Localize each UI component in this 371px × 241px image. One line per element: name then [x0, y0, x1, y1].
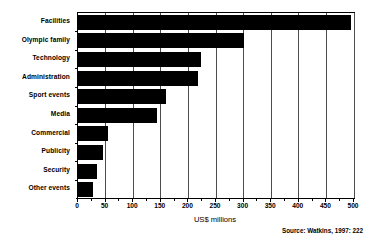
x-tick-label: 100 — [127, 203, 138, 210]
bar-row — [78, 164, 354, 179]
bar-row — [78, 126, 354, 141]
bar-row — [78, 89, 354, 104]
bar — [78, 33, 244, 48]
x-minor-tick-75 — [118, 198, 119, 201]
bar — [78, 108, 157, 123]
bar — [78, 52, 201, 67]
x-tick-label: 350 — [265, 203, 276, 210]
category-tick — [75, 124, 78, 125]
category-tick — [75, 31, 78, 32]
category-label: Olympic family — [22, 37, 70, 44]
category-tick — [75, 161, 78, 162]
x-axis-title: US$ millions — [77, 216, 353, 224]
category-tick — [75, 180, 78, 181]
bar — [78, 182, 93, 197]
category-label: Facilities — [41, 18, 70, 25]
category-tick — [75, 87, 78, 88]
category-axis: FacilitiesOlympic familyTechnologyAdmini… — [0, 12, 74, 198]
bar-chart: FacilitiesOlympic familyTechnologyAdmini… — [0, 0, 371, 241]
category-label: Administration — [22, 74, 70, 81]
x-minor-tick-225 — [201, 198, 202, 201]
bar — [78, 89, 166, 104]
x-tick-label: 450 — [320, 203, 331, 210]
bar-row — [78, 15, 354, 30]
category-tick — [75, 50, 78, 51]
bar — [78, 126, 108, 141]
category-label: Technology — [32, 55, 70, 62]
x-minor-tick-125 — [146, 198, 147, 201]
category-label: Commercial — [31, 130, 70, 137]
source-note: Source: Watkins, 1997: 222 — [282, 228, 363, 234]
x-minor-tick-275 — [229, 198, 230, 201]
x-minor-tick-475 — [339, 198, 340, 201]
bar-row — [78, 71, 354, 86]
bar — [78, 71, 198, 86]
bar-row — [78, 145, 354, 160]
bar-row — [78, 52, 354, 67]
bar — [78, 15, 351, 30]
x-tick-label: 500 — [347, 203, 358, 210]
category-label: Publicity — [42, 148, 70, 155]
category-label: Security — [43, 167, 70, 174]
x-tick-label: 150 — [154, 203, 165, 210]
bar — [78, 145, 103, 160]
category-label: Sport events — [29, 92, 70, 99]
category-tick — [75, 68, 78, 69]
category-label: Media — [51, 111, 70, 118]
x-tick-label: 400 — [292, 203, 303, 210]
x-tick-label: 300 — [237, 203, 248, 210]
x-tick-label: 50 — [101, 203, 108, 210]
bar-row — [78, 33, 354, 48]
x-minor-tick-25 — [91, 198, 92, 201]
x-tick-label: 250 — [209, 203, 220, 210]
bar-row — [78, 182, 354, 197]
bar — [78, 164, 97, 179]
plot-area — [77, 12, 355, 199]
x-tick-label: 0 — [75, 203, 79, 210]
x-minor-tick-175 — [174, 198, 175, 201]
category-tick — [75, 106, 78, 107]
bar-row — [78, 108, 354, 123]
x-minor-tick-375 — [284, 198, 285, 201]
x-minor-tick-425 — [312, 198, 313, 201]
category-tick — [75, 143, 78, 144]
x-minor-tick-325 — [256, 198, 257, 201]
category-label: Other events — [28, 185, 70, 192]
x-tick-label: 200 — [182, 203, 193, 210]
